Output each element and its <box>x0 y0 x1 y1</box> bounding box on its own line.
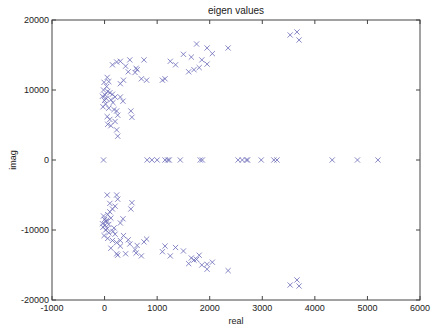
x-marker <box>129 200 134 205</box>
y-tick-label: -20000 <box>21 295 49 305</box>
y-axis: -20000-1000001000020000 <box>21 15 420 305</box>
x-marker <box>210 51 215 56</box>
x-marker <box>236 157 241 162</box>
x-marker <box>127 57 132 62</box>
x-marker <box>118 59 123 64</box>
x-marker <box>115 134 120 139</box>
x-marker <box>240 157 245 162</box>
x-axis: -10000100020003000400050006000 <box>40 20 430 313</box>
x-marker <box>132 70 137 75</box>
x-marker <box>101 213 106 218</box>
x-marker <box>135 67 140 72</box>
x-tick-label: 1000 <box>147 303 167 313</box>
x-marker <box>101 87 106 92</box>
y-tick-label: -10000 <box>21 225 49 235</box>
x-marker <box>162 244 167 249</box>
x-marker <box>101 233 106 238</box>
x-marker <box>123 251 128 256</box>
x-marker <box>186 261 191 266</box>
x-marker <box>245 157 250 162</box>
x-marker <box>114 108 119 113</box>
x-marker <box>181 248 186 253</box>
x-marker <box>110 229 115 234</box>
x-marker <box>149 157 154 162</box>
x-marker <box>127 241 132 246</box>
x-marker <box>105 75 110 80</box>
x-marker <box>330 157 335 162</box>
data-points <box>100 29 381 288</box>
x-marker <box>160 249 165 254</box>
x-tick-label: 0 <box>102 303 107 313</box>
x-marker <box>204 62 209 67</box>
x-marker <box>199 57 204 62</box>
x-marker <box>115 253 120 258</box>
x-marker <box>118 81 123 86</box>
x-marker <box>197 65 202 70</box>
x-marker <box>112 232 117 237</box>
x-marker <box>123 64 128 69</box>
x-marker <box>168 253 173 258</box>
x-marker <box>106 230 111 235</box>
x-marker <box>375 157 380 162</box>
x-marker <box>126 69 131 74</box>
x-marker <box>181 52 186 57</box>
x-marker <box>102 92 107 97</box>
x-marker <box>244 157 249 162</box>
x-tick-label: 6000 <box>410 303 430 313</box>
x-marker <box>115 113 120 118</box>
x-marker <box>162 76 167 81</box>
x-marker <box>226 45 231 50</box>
plot-frame <box>52 20 420 300</box>
x-marker <box>115 197 120 202</box>
x-axis-label: real <box>228 316 243 326</box>
x-marker <box>114 192 119 197</box>
x-marker <box>100 104 105 109</box>
x-marker <box>129 115 134 120</box>
x-marker <box>186 69 191 74</box>
x-marker <box>189 55 194 60</box>
x-tick-label: 4000 <box>305 303 325 313</box>
x-marker <box>110 100 115 105</box>
x-marker <box>204 267 209 272</box>
x-marker <box>111 225 116 230</box>
x-marker <box>199 262 204 267</box>
x-marker <box>108 246 113 251</box>
x-marker <box>114 127 119 132</box>
x-marker <box>105 192 110 197</box>
x-marker <box>173 62 178 67</box>
x-marker <box>178 157 183 162</box>
x-marker <box>173 245 178 250</box>
x-marker <box>145 157 150 162</box>
x-marker <box>294 29 299 34</box>
x-marker <box>259 157 264 162</box>
x-marker <box>139 76 144 81</box>
y-tick-label: 10000 <box>24 85 49 95</box>
x-marker <box>355 157 360 162</box>
x-marker <box>162 157 167 162</box>
chart-title: eigen values <box>208 5 264 16</box>
x-marker <box>144 78 149 83</box>
x-marker <box>191 67 196 72</box>
x-marker <box>296 37 301 42</box>
x-marker <box>121 233 126 238</box>
x-marker <box>141 57 146 62</box>
eigenvalue-scatter-chart: eigen values -10000100020003000400050006… <box>0 0 435 330</box>
x-marker <box>107 117 112 122</box>
x-tick-label: 3000 <box>252 303 272 313</box>
x-marker <box>204 45 209 50</box>
x-marker <box>106 106 111 111</box>
x-marker <box>210 260 215 265</box>
y-tick-label: 0 <box>44 155 49 165</box>
x-marker <box>288 282 293 287</box>
x-marker <box>194 41 199 46</box>
x-marker <box>274 157 279 162</box>
x-marker <box>107 201 112 206</box>
x-marker <box>288 32 293 37</box>
x-marker <box>155 157 160 162</box>
x-marker <box>144 237 149 242</box>
y-axis-label: imag <box>8 150 18 170</box>
y-tick-label: 20000 <box>24 15 49 25</box>
x-marker <box>101 157 106 162</box>
x-marker <box>134 251 139 256</box>
x-marker <box>106 79 111 84</box>
